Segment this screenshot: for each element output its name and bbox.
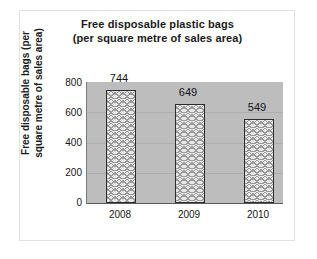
x-tick-label-2009: 2009 (159, 209, 219, 221)
value-label-2010: 549 (224, 101, 290, 113)
value-label-2008: 744 (86, 72, 152, 84)
x-tick-label-2010: 2010 (228, 209, 288, 221)
y-tick-label: 800 (50, 78, 82, 88)
bar-chart: Free disposable plastic bags (per square… (0, 0, 317, 259)
y-tick-label: 200 (50, 168, 82, 178)
y-axis-title: Free disposable bags (per square metre o… (19, 28, 47, 158)
x-axis-ticks: 2008 2009 2010 (86, 209, 283, 223)
y-axis-title-line-1: Free disposable bags (per (19, 28, 32, 158)
bar-2010[interactable] (244, 119, 274, 203)
y-axis-ticks: 800 600 400 200 0 (48, 82, 82, 204)
y-tick-label: 600 (50, 108, 82, 118)
y-tick-label: 0 (50, 198, 82, 208)
bar-2009[interactable] (175, 104, 205, 203)
chart-title: Free disposable plastic bags (per square… (30, 17, 285, 45)
chart-title-line-1: Free disposable plastic bags (30, 17, 285, 31)
y-axis-title-line-2: square metre of sales area) (32, 28, 45, 158)
bar-2008[interactable] (106, 90, 136, 203)
chart-title-line-2: (per square metre of sales area) (30, 31, 285, 45)
x-tick-label-2008: 2008 (90, 209, 150, 221)
value-label-2009: 649 (155, 86, 221, 98)
y-tick-label: 400 (50, 138, 82, 148)
